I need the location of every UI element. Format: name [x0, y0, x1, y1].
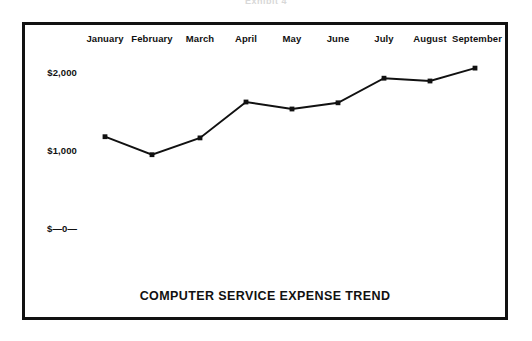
- x-axis-label-january: January: [86, 33, 123, 44]
- y-axis-tick-1000: $1,000: [47, 145, 77, 156]
- x-axis-label-may: May: [283, 33, 302, 44]
- scan-header-fragment: Exhibit 4: [0, 0, 532, 5]
- x-axis-label-april: April: [235, 33, 257, 44]
- x-axis-label-september: September: [452, 33, 502, 44]
- x-axis-label-march: March: [186, 33, 214, 44]
- y-axis-tick-0: $—0—: [47, 223, 77, 234]
- chart-frame: [22, 22, 508, 320]
- x-axis-label-february: February: [131, 33, 172, 44]
- x-axis-label-june: June: [327, 33, 350, 44]
- chart-page: Exhibit 4 January February March April M…: [0, 0, 532, 341]
- x-axis-label-august: August: [413, 33, 446, 44]
- chart-title: COMPUTER SERVICE EXPENSE TREND: [22, 289, 508, 303]
- x-axis-label-july: July: [374, 33, 393, 44]
- y-axis-tick-2000: $2,000: [47, 67, 77, 78]
